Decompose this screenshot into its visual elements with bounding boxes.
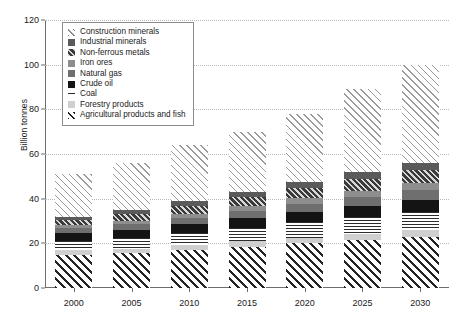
legend-item[interactable]: Non-ferrous metals (68, 48, 186, 58)
y-tick-label: 0 (34, 283, 39, 293)
legend-item[interactable]: Iron ores (68, 58, 186, 68)
bar-segment-construction[interactable] (229, 132, 266, 192)
bar-segment-naturalgas[interactable] (55, 228, 92, 233)
bar-segment-crudeoil[interactable] (286, 212, 323, 223)
bar-segment-crudeoil[interactable] (402, 200, 439, 212)
bar-segment-industrial[interactable] (171, 201, 208, 205)
bar-segment-coal[interactable] (402, 212, 439, 230)
x-tick-mark (74, 288, 75, 292)
x-tick-mark (189, 288, 190, 292)
x-tick-label: 2005 (122, 298, 142, 308)
bar-segment-industrial[interactable] (113, 210, 150, 214)
bar-segment-ironores[interactable] (286, 198, 323, 203)
bar-segment-industrial[interactable] (402, 163, 439, 171)
bar-segment-nonferrous[interactable] (402, 170, 439, 183)
bar-segment-crudeoil[interactable] (55, 233, 92, 241)
y-tick-label: 120 (24, 15, 39, 25)
bar-segment-forestry[interactable] (229, 241, 266, 246)
bar-segment-crudeoil[interactable] (113, 230, 150, 239)
bar-segment-construction[interactable] (113, 163, 150, 210)
bar-segment-ironores[interactable] (113, 221, 150, 224)
legend-item[interactable]: Natural gas (68, 69, 186, 79)
x-tick-label: 2020 (295, 298, 315, 308)
bar-segment-ironores[interactable] (171, 214, 208, 218)
bar-segment-agri[interactable] (286, 243, 323, 288)
legend-swatch-crudeoil-icon (68, 81, 75, 88)
bar-segment-forestry[interactable] (344, 234, 381, 240)
bar-segment-coal[interactable] (113, 238, 150, 248)
bar-segment-naturalgas[interactable] (286, 204, 323, 212)
bar-segment-agri[interactable] (344, 240, 381, 288)
bar-segment-naturalgas[interactable] (171, 218, 208, 224)
legend-item-label: Non-ferrous metals (80, 49, 150, 57)
legend-swatch-coal-icon (68, 91, 75, 98)
bar-segment-nonferrous[interactable] (344, 179, 381, 190)
bar-segment-construction[interactable] (55, 174, 92, 216)
bar-segment-nonferrous[interactable] (113, 214, 150, 221)
legend-swatch-agri-icon (68, 112, 75, 119)
x-tick-mark (362, 288, 363, 292)
bar-segment-nonferrous[interactable] (171, 206, 208, 214)
bar-segment-forestry[interactable] (113, 249, 150, 254)
bar-segment-naturalgas[interactable] (344, 197, 381, 206)
bar-segment-construction[interactable] (171, 145, 208, 201)
bar-2020[interactable] (286, 114, 323, 288)
bar-segment-crudeoil[interactable] (171, 224, 208, 233)
legend-swatch-forestry-icon (68, 101, 75, 108)
legend-item[interactable]: Crude oil (68, 79, 186, 89)
y-tick-mark (41, 198, 45, 199)
legend-item[interactable]: Forestry products (68, 100, 186, 110)
bar-segment-ironores[interactable] (55, 225, 92, 228)
bar-segment-nonferrous[interactable] (55, 220, 92, 226)
bar-segment-crudeoil[interactable] (344, 206, 381, 217)
bar-segment-industrial[interactable] (286, 182, 323, 188)
legend-item-label: Agricultural products and fish (80, 111, 186, 119)
bar-segment-agri[interactable] (229, 247, 266, 288)
bar-segment-naturalgas[interactable] (113, 224, 150, 230)
bar-segment-ironores[interactable] (344, 191, 381, 197)
bar-segment-naturalgas[interactable] (229, 211, 266, 218)
bar-segment-industrial[interactable] (229, 192, 266, 197)
legend-item[interactable]: Industrial minerals (68, 37, 186, 47)
bar-segment-construction[interactable] (344, 89, 381, 172)
bar-segment-nonferrous[interactable] (229, 197, 266, 206)
legend-item[interactable]: Agricultural products and fish (68, 110, 186, 120)
bar-segment-coal[interactable] (55, 241, 92, 250)
bar-segment-industrial[interactable] (55, 217, 92, 220)
bar-segment-industrial[interactable] (344, 172, 381, 179)
bar-segment-crudeoil[interactable] (229, 218, 266, 228)
legend-item[interactable]: Coal (68, 89, 186, 99)
bar-segment-coal[interactable] (229, 228, 266, 241)
bar-2015[interactable] (229, 132, 266, 288)
bar-segment-ironores[interactable] (229, 206, 266, 211)
bar-2030[interactable] (402, 65, 439, 288)
bar-segment-coal[interactable] (286, 222, 323, 237)
bar-segment-nonferrous[interactable] (286, 188, 323, 198)
bar-segment-naturalgas[interactable] (402, 190, 439, 200)
x-tick-label: 2010 (179, 298, 199, 308)
legend-item-label: Iron ores (80, 59, 112, 67)
bar-segment-coal[interactable] (171, 233, 208, 245)
bar-segment-agri[interactable] (402, 237, 439, 288)
bar-2005[interactable] (113, 163, 150, 288)
bar-segment-agri[interactable] (171, 250, 208, 288)
bar-segment-construction[interactable] (286, 114, 323, 182)
bar-segment-agri[interactable] (113, 253, 150, 288)
bar-2000[interactable] (55, 174, 92, 288)
bar-segment-agri[interactable] (55, 255, 92, 289)
stacked-bar-chart: Billion tonnes 020406080100120 200020052… (0, 0, 463, 318)
bar-segment-forestry[interactable] (171, 245, 208, 250)
y-tick-label: 80 (29, 104, 39, 114)
y-tick-label: 20 (29, 238, 39, 248)
bar-segment-forestry[interactable] (402, 230, 439, 237)
bar-segment-coal[interactable] (344, 217, 381, 234)
bar-segment-forestry[interactable] (55, 250, 92, 254)
bar-segment-forestry[interactable] (286, 238, 323, 244)
bar-2025[interactable] (344, 89, 381, 288)
bar-2010[interactable] (171, 145, 208, 288)
y-tick-mark (41, 109, 45, 110)
legend-item[interactable]: Construction minerals (68, 27, 186, 37)
bar-segment-ironores[interactable] (402, 183, 439, 190)
bar-segment-construction[interactable] (402, 65, 439, 163)
y-tick-mark (41, 20, 45, 21)
